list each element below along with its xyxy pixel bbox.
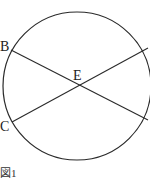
point-label-e: E xyxy=(73,68,82,83)
circle xyxy=(3,12,150,160)
geometry-figure: B C E 図1 xyxy=(0,0,150,180)
point-label-b: B xyxy=(0,39,9,54)
figure-caption: 図1 xyxy=(0,167,17,179)
point-label-c: C xyxy=(0,119,9,134)
chord-from-C xyxy=(12,48,148,122)
